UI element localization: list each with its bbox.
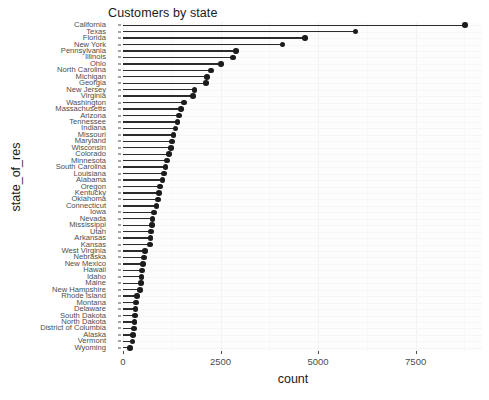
- y-tick-mark: [118, 199, 121, 200]
- lollipop-point: [139, 274, 145, 280]
- y-tick-mark: [118, 263, 121, 264]
- lollipop-stem: [123, 160, 167, 161]
- lollipop-point: [181, 100, 187, 106]
- lollipop-stem: [123, 128, 176, 129]
- lollipop-stem: [123, 244, 150, 245]
- y-tick-mark: [118, 186, 121, 187]
- y-axis-ticks: CaliforniaTexasFloridaNew YorkPennsylvan…: [0, 22, 116, 351]
- y-tick-mark: [118, 244, 121, 245]
- lollipop-stem: [123, 70, 211, 71]
- y-tick-mark: [118, 192, 121, 193]
- lollipop-point: [131, 326, 137, 332]
- lollipop-point: [168, 145, 174, 151]
- lollipop-stem: [123, 218, 153, 219]
- lollipop-point: [151, 210, 157, 216]
- x-tick-label: 2500: [210, 356, 231, 367]
- lollipop-point: [230, 55, 236, 61]
- lollipop-stem: [123, 102, 184, 103]
- y-tick-mark: [118, 238, 121, 239]
- lollipop-point: [141, 255, 147, 261]
- y-tick-mark: [118, 251, 121, 252]
- lollipop-point: [169, 139, 175, 145]
- lollipop-stem: [123, 141, 172, 142]
- y-tick-mark: [118, 63, 121, 64]
- y-tick-mark: [118, 321, 121, 322]
- y-tick-mark: [118, 96, 121, 97]
- lollipop-point: [164, 158, 170, 164]
- y-tick-mark: [118, 347, 121, 348]
- y-tick-mark: [118, 283, 121, 284]
- y-tick-mark: [118, 128, 121, 129]
- lollipop-stem: [123, 212, 154, 213]
- lollipop-point: [149, 222, 155, 228]
- lollipop-point: [139, 268, 145, 274]
- y-tick-mark: [118, 160, 121, 161]
- y-tick-mark: [118, 31, 121, 32]
- y-tick-mark: [118, 180, 121, 181]
- lollipop-point: [302, 35, 308, 41]
- lollipop-stem: [123, 237, 150, 238]
- y-tick-mark: [118, 270, 121, 271]
- y-tick-mark: [118, 141, 121, 142]
- y-tick-mark: [118, 76, 121, 77]
- lollipop-point: [150, 216, 156, 222]
- lollipop-stem: [123, 108, 181, 109]
- lollipop-point: [178, 106, 184, 112]
- lollipop-point: [192, 87, 198, 93]
- y-tick-mark: [118, 173, 121, 174]
- lollipop-point: [138, 280, 144, 286]
- lollipop-stem: [123, 121, 178, 122]
- y-tick-mark: [118, 302, 121, 303]
- lollipop-stem: [123, 166, 166, 167]
- lollipop-point: [137, 287, 143, 293]
- lollipop-point: [142, 248, 148, 254]
- lollipop-stem: [123, 179, 162, 180]
- y-tick-mark: [118, 212, 121, 213]
- lollipop-point: [156, 190, 162, 196]
- y-tick-mark: [118, 257, 121, 258]
- chart-figure: Customers by state state_of_res Californ…: [0, 0, 489, 400]
- y-tick-mark: [118, 51, 121, 52]
- x-tick-mark: [318, 351, 319, 354]
- x-axis-title: count: [123, 372, 463, 386]
- y-tick-mark: [118, 341, 121, 342]
- lollipop-point: [140, 261, 146, 267]
- y-tick-mark: [118, 276, 121, 277]
- x-tick-label: 7500: [405, 356, 426, 367]
- y-tick-mark: [118, 167, 121, 168]
- lollipop-stem: [123, 63, 221, 64]
- lollipop-stem: [123, 154, 169, 155]
- lollipop-point: [171, 132, 177, 138]
- lollipop-stem: [123, 57, 233, 58]
- y-tick-mark: [118, 334, 121, 335]
- lollipop-stem: [123, 83, 206, 84]
- y-tick-mark: [118, 115, 121, 116]
- lollipop-point: [130, 339, 136, 345]
- lollipop-stem: [123, 231, 151, 232]
- lollipop-point: [130, 332, 136, 338]
- lollipop-stem: [123, 95, 193, 96]
- lollipop-point: [233, 48, 239, 54]
- y-tick-mark: [118, 57, 121, 58]
- lollipop-stem: [123, 50, 236, 51]
- y-tick-mark: [118, 231, 121, 232]
- lollipop-point: [160, 177, 166, 183]
- lollipop-stem: [123, 115, 179, 116]
- y-tick-mark: [118, 309, 121, 310]
- x-tick-label: 5000: [308, 356, 329, 367]
- lollipop-point: [218, 61, 224, 67]
- lollipop-stem: [123, 186, 160, 187]
- lollipop-point: [134, 293, 140, 299]
- y-tick-mark: [118, 121, 121, 122]
- lollipop-point: [173, 126, 179, 132]
- lollipop-stem: [123, 76, 207, 77]
- lollipop-point: [161, 171, 167, 177]
- lollipop-stem: [123, 37, 305, 38]
- lollipop-stem: [123, 173, 164, 174]
- x-tick-label: 0: [120, 356, 125, 367]
- y-tick-mark: [118, 218, 121, 219]
- y-tick-mark: [118, 25, 121, 26]
- y-tick-mark: [118, 44, 121, 45]
- y-tick-mark: [118, 89, 121, 90]
- lollipop-point: [157, 184, 163, 190]
